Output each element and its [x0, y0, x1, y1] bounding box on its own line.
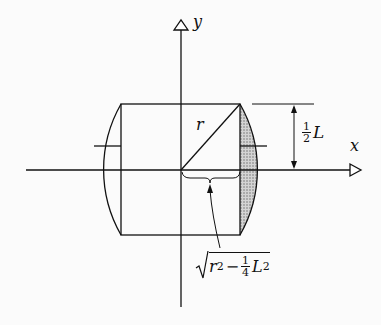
x-axis-arrow-icon	[350, 164, 361, 176]
sqrt-label: r2 − 1 4 L2	[195, 250, 270, 280]
sqrt-sign-icon	[195, 250, 209, 280]
dimension-arrow-up-icon	[291, 105, 297, 113]
sqrt-minus: −	[226, 257, 239, 276]
sqrt-r: r	[209, 259, 217, 275]
y-axis-arrow-icon	[174, 20, 188, 30]
pointer-curve	[210, 190, 220, 248]
diagram-figure	[0, 0, 381, 325]
half-denominator: 2	[303, 133, 310, 144]
sqrt-denominator: 4	[242, 267, 249, 278]
sqrt-L: L	[252, 259, 263, 275]
sqrt-L-exp: 2	[263, 260, 270, 273]
pointer-arrow-icon	[207, 184, 213, 193]
radius-line	[181, 104, 240, 170]
brace	[182, 172, 240, 183]
diagram-canvas: y x r 1 2 L r2 − 1 4 L2	[0, 0, 381, 325]
half-length-label: 1 2 L	[302, 121, 324, 144]
half-length-symbol: L	[313, 124, 324, 141]
radius-label: r	[196, 117, 204, 133]
sqrt-r-exp: 2	[217, 260, 224, 273]
y-axis-label: y	[193, 14, 202, 30]
x-axis-label: x	[350, 138, 359, 154]
dimension-arrow-down-icon	[291, 161, 297, 169]
